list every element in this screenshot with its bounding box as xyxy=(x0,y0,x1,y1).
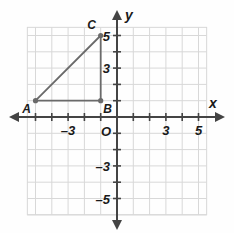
x-axis-arrow-left xyxy=(9,112,19,122)
vertex-label-A: A xyxy=(21,102,31,116)
y-axis-label: y xyxy=(124,7,134,23)
axis-lines xyxy=(9,10,225,230)
y-tick-label: –5 xyxy=(96,192,111,207)
vertex-point-A xyxy=(33,98,38,103)
y-axis-arrow-up xyxy=(112,10,122,20)
x-axis-arrow-right xyxy=(215,112,225,122)
x-tick-label: 3 xyxy=(162,123,170,138)
x-tick-label: 5 xyxy=(195,123,203,138)
plot-svg: –33553–3–5 OxyABC xyxy=(0,0,234,233)
y-axis-arrow-down xyxy=(112,220,122,230)
y-tick-label: 3 xyxy=(103,61,111,76)
y-tick-label: 5 xyxy=(103,29,111,44)
vertex-point-C xyxy=(98,33,103,38)
plot-labels: OxyABC xyxy=(21,7,218,139)
coordinate-plane-figure: –33553–3–5 OxyABC xyxy=(0,0,234,233)
x-tick-label: –3 xyxy=(61,123,76,138)
vertex-label-C: C xyxy=(87,18,96,32)
y-tick-label: –3 xyxy=(96,159,111,174)
x-axis-label: x xyxy=(208,95,218,111)
origin-label: O xyxy=(101,124,111,139)
vertex-label-B: B xyxy=(103,102,112,116)
